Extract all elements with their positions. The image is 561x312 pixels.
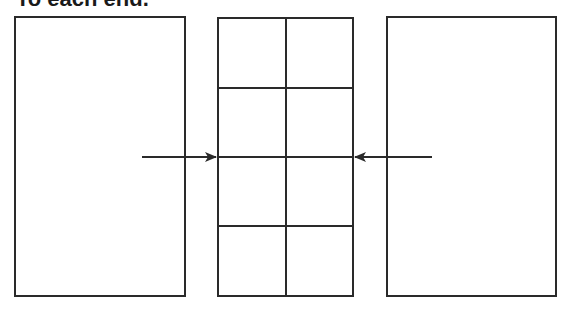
assembly-diagram xyxy=(0,0,561,312)
center-grid xyxy=(218,18,353,296)
